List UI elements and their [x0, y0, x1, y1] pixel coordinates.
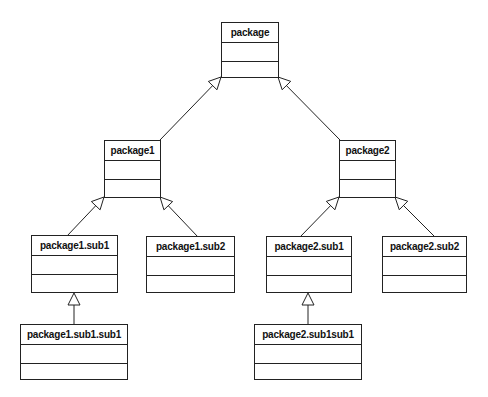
attributes-compartment [32, 256, 117, 275]
generalization-line [403, 205, 435, 237]
hollow-triangle-arrow-icon [302, 293, 314, 305]
operations-compartment [21, 364, 127, 381]
generalization-line [168, 206, 198, 237]
package-box-package2-sub1: package2.sub1 [266, 236, 352, 293]
generalization-line [67, 206, 96, 236]
attributes-compartment [255, 345, 361, 364]
attributes-compartment [147, 257, 234, 276]
operations-compartment [32, 275, 117, 292]
package-box-package1-sub2: package1.sub2 [146, 236, 235, 293]
package-box-package2-sub2: package2.sub2 [382, 236, 467, 293]
package-name: package1 [105, 141, 160, 161]
package-name: package2.sub2 [383, 237, 466, 257]
operations-compartment [147, 276, 234, 293]
package-name: package2 [340, 141, 395, 161]
package-box-package1-sub1-sub1: package1.sub1.sub1 [20, 324, 128, 380]
operations-compartment [105, 180, 160, 197]
package-box-package1-sub1: package1.sub1 [31, 235, 118, 293]
operations-compartment [383, 276, 466, 293]
operations-compartment [222, 62, 278, 79]
attributes-compartment [383, 257, 466, 276]
attributes-compartment [21, 345, 127, 364]
operations-compartment [340, 180, 395, 197]
package-name: package1.sub1.sub1 [21, 325, 127, 345]
hollow-triangle-arrow-icon [68, 293, 80, 305]
package-name: package1.sub2 [147, 237, 234, 257]
diagram-canvas: package package1 package2 package1.sub1 … [0, 0, 488, 397]
operations-compartment [255, 364, 361, 381]
generalization-line [286, 86, 340, 140]
package-box-package1: package1 [104, 140, 161, 198]
package-box-root: package [221, 22, 279, 78]
package-name: package2.sub1 [267, 237, 351, 257]
generalization-line [160, 86, 213, 140]
package-name: package1.sub1 [32, 236, 117, 256]
attributes-compartment [222, 43, 278, 62]
operations-compartment [267, 276, 351, 293]
attributes-compartment [267, 257, 351, 276]
generalization-line [300, 206, 331, 237]
attributes-compartment [340, 161, 395, 180]
package-box-package2: package2 [339, 140, 396, 198]
package-box-package2-sub1sub1: package2.sub1sub1 [254, 324, 362, 380]
attributes-compartment [105, 161, 160, 180]
package-name: package [222, 23, 278, 43]
package-name: package2.sub1sub1 [255, 325, 361, 345]
